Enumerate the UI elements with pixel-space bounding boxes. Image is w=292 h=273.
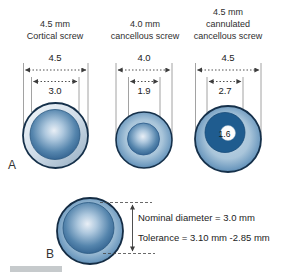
- column-cortical-screw: 4.5 mm Cortical screw 4.5 3.0: [23, 19, 88, 168]
- tolerance-annotation: Tolerance = 3.10 mm -2.85 mm: [138, 232, 270, 243]
- column2-core-diameter-value: 1.9: [137, 85, 150, 96]
- column1-header-line2: Cortical screw: [27, 31, 84, 41]
- panel-b-diagram: Nominal diameter = 3.0 mm Tolerance = 3.…: [46, 198, 270, 264]
- nominal-diameter-annotation: Nominal diameter = 3.0 mm: [138, 212, 255, 223]
- column3-header-line2: cannulated: [206, 19, 250, 29]
- panel-b-label: B: [46, 247, 54, 261]
- cannulation-diameter-value: 1.6: [219, 129, 231, 139]
- cropped-caption-strip: [10, 266, 62, 272]
- diagram-canvas: 4.5 mm Cortical screw 4.5 3.0 4.0 mm can…: [0, 0, 292, 273]
- screw-diameter-diagram: 4.5 mm Cortical screw 4.5 3.0 4.0 mm can…: [0, 0, 292, 273]
- column-cancellous-screw: 4.0 mm cancellous screw 4.0 1.9: [111, 19, 180, 168]
- column3-outer-diameter-value: 4.5: [221, 52, 234, 63]
- column3-header-line3: cancellous screw: [194, 31, 263, 41]
- column1-header-line1: 4.5 mm: [40, 19, 70, 29]
- column2-header-line2: cancellous screw: [111, 31, 180, 41]
- column1-outer-diameter-value: 4.5: [48, 52, 61, 63]
- panel-a-label: A: [8, 158, 16, 172]
- column3-header-line1: 4.5 mm: [213, 7, 243, 17]
- column1-core-diameter-value: 3.0: [48, 85, 61, 96]
- column-cannulated-cancellous-screw: 4.5 mm cannulated cancellous screw 4.5 2…: [194, 7, 263, 172]
- column2-header-line1: 4.0 mm: [130, 19, 160, 29]
- column3-core-diameter-value: 2.7: [218, 85, 231, 96]
- cancellous-screw-core: [128, 123, 160, 155]
- column2-outer-diameter-value: 4.0: [137, 52, 150, 63]
- cortical-screw-core: [30, 110, 80, 160]
- panel-b-screw-core: [63, 203, 114, 254]
